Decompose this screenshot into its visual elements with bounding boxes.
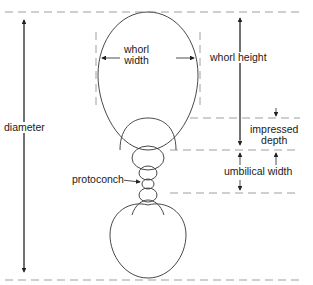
whorl-height-label: whorl height [210, 52, 267, 63]
upper-whorl-outline [98, 12, 198, 150]
impressed-depth-label: impressed depth [250, 124, 298, 146]
protoconch-label: protoconch [72, 174, 124, 185]
umbilical-width-label: umbilical width [224, 166, 292, 177]
upper-inner-whorl [120, 118, 176, 150]
impressed-depth-line2: depth [250, 135, 298, 146]
lower-whorl-outline [110, 204, 186, 278]
whorl-width-label: whorl width [124, 44, 149, 66]
diameter-label: diameter [4, 122, 45, 133]
whorl-width-label-line2: width [124, 55, 149, 66]
